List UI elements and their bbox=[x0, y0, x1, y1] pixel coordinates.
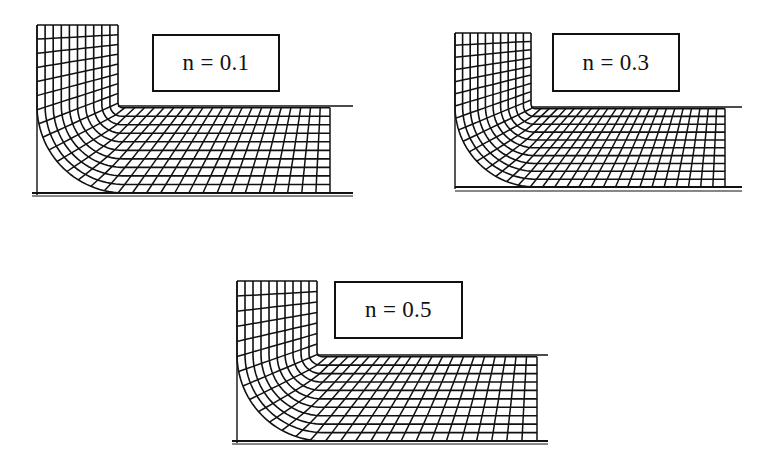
label-n05: n = 0.5 bbox=[334, 281, 463, 339]
label-n01: n = 0.1 bbox=[152, 34, 280, 92]
label-n03: n = 0.3 bbox=[552, 33, 680, 92]
